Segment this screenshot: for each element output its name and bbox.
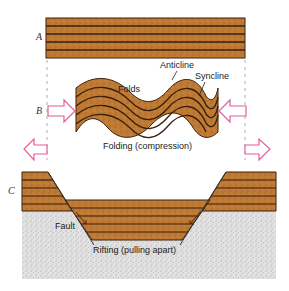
- tension-arrow-right: [245, 139, 270, 160]
- folds-label: Folds: [118, 84, 141, 94]
- tension-arrow-left: [24, 139, 47, 160]
- anticline-label: Anticline: [160, 60, 194, 70]
- rifting-caption: Rifting (pulling apart): [93, 245, 176, 255]
- anticline-leader: [172, 71, 177, 80]
- compression-arrow-left: [48, 100, 75, 122]
- syncline-label: Syncline: [195, 71, 229, 81]
- section-label-c: C: [8, 185, 15, 196]
- fault-label: Fault: [55, 221, 76, 231]
- section-label-b: B: [36, 105, 42, 116]
- section-a-strata: [46, 18, 245, 58]
- compression-arrow-right: [219, 100, 246, 122]
- section-b-folds: [76, 78, 218, 137]
- folding-caption: Folding (compression): [103, 141, 192, 151]
- geology-diagram: A B Folds Anticline Syncline Folding (co…: [0, 0, 289, 291]
- section-label-a: A: [35, 31, 43, 42]
